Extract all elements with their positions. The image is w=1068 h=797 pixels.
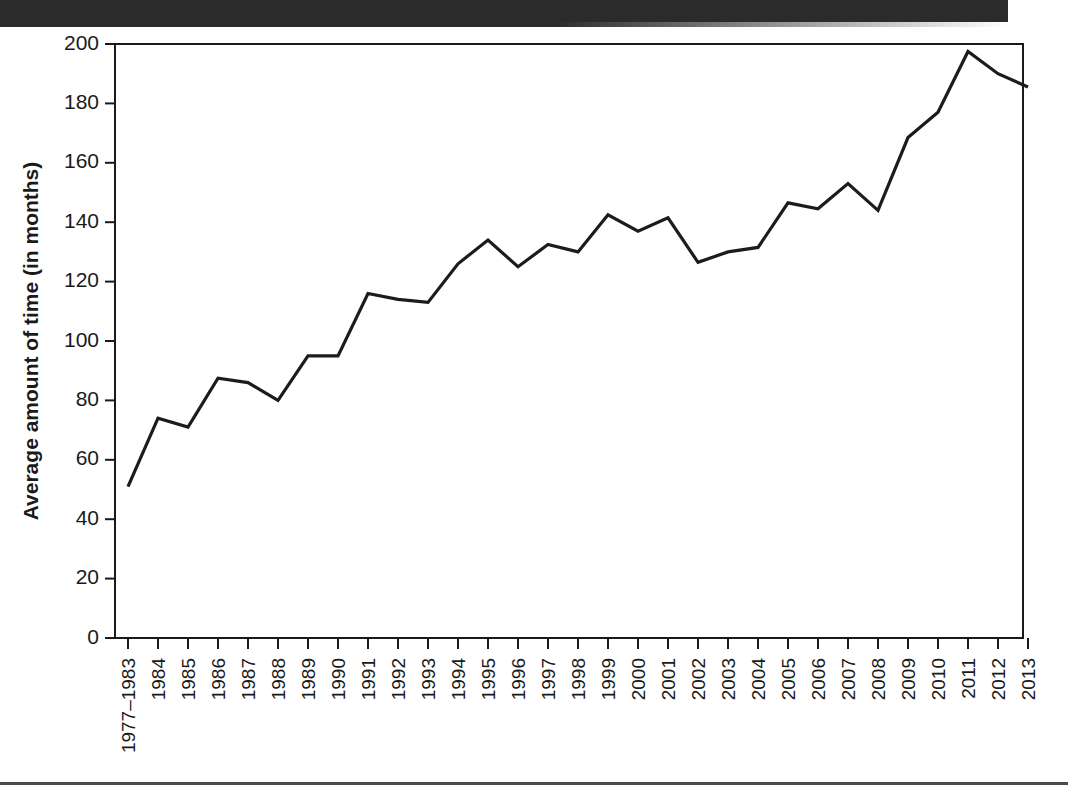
x-tick-label: 1994 [448,658,469,701]
y-tick-label: 180 [64,90,99,113]
x-tick-label: 2010 [928,658,949,700]
y-axis: 020406080100120140160180200 [64,31,115,648]
data-series-line [128,51,1028,486]
x-tick-label: 1995 [478,658,499,700]
y-tick-label: 20 [76,565,99,588]
x-tick-label: 1988 [268,658,289,700]
x-tick-label: 2013 [1018,658,1039,700]
figure-bottom-rule [0,782,1068,785]
x-axis: 1977–19831984198519861987198819891990199… [118,638,1039,753]
x-tick-label: 2007 [838,658,859,700]
x-tick-label: 1996 [508,658,529,700]
x-tick-label: 2003 [718,658,739,700]
x-tick-label: 1993 [418,658,439,700]
y-tick-label: 40 [76,506,99,529]
x-tick-label: 2009 [898,658,919,700]
plot-frame [115,44,1023,638]
x-tick-label: 2008 [868,658,889,700]
y-tick-label: 120 [64,268,99,291]
line-chart: 020406080100120140160180200 1977–1983198… [0,27,1068,777]
x-tick-label: 1986 [208,658,229,700]
x-tick-label: 2001 [658,658,679,700]
page-header-band [0,0,1008,22]
x-tick-label: 1987 [238,658,259,700]
y-tick-label: 160 [64,149,99,172]
x-tick-label: 2000 [628,658,649,700]
x-tick-label: 2002 [688,658,709,700]
y-tick-label: 0 [87,625,99,648]
x-tick-label: 2004 [748,658,769,701]
x-tick-label: 1992 [388,658,409,700]
x-tick-label: 1985 [178,658,199,700]
x-tick-label: 1997 [538,658,559,700]
y-tick-label: 200 [64,31,99,54]
y-tick-label: 60 [76,446,99,469]
x-tick-label: 2006 [808,658,829,700]
x-tick-label: 1984 [148,658,169,701]
figure-page: 020406080100120140160180200 1977–1983198… [0,0,1068,797]
y-tick-label: 100 [64,328,99,351]
x-tick-label: 1998 [568,658,589,700]
x-tick-label: 1977–1983 [118,658,139,753]
y-axis-title: Average amount of time (in months) [19,162,42,521]
x-tick-label: 2005 [778,658,799,700]
x-tick-label: 2012 [988,658,1009,700]
y-tick-label: 140 [64,209,99,232]
x-tick-label: 1989 [298,658,319,700]
y-tick-label: 80 [76,387,99,410]
x-tick-label: 1990 [328,658,349,700]
x-tick-label: 1991 [358,658,379,700]
chart-canvas: 020406080100120140160180200 1977–1983198… [0,27,1068,777]
x-tick-label: 1999 [598,658,619,700]
x-tick-label: 2011 [958,658,979,699]
